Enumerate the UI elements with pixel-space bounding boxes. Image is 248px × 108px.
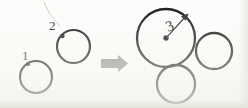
- circle-two-label: 2: [49, 18, 56, 33]
- circle-two-tangent-dot: [60, 34, 64, 38]
- rightwards-block-arrow-shape: [101, 55, 128, 72]
- radius-label: 3: [163, 17, 176, 35]
- circle-one-label: 1: [22, 48, 29, 63]
- figure-canvas: 1 2 3: [0, 0, 248, 108]
- right-circle-group: 3: [137, 9, 232, 103]
- circle-bottom-outline: [157, 65, 195, 103]
- left-circle-group: 1 2: [20, 2, 90, 93]
- circle-right-outline: [196, 33, 232, 69]
- circle-one-outline: [20, 61, 52, 93]
- circle-diagram-svg: 1 2 3: [0, 0, 248, 108]
- transform-arrow-icon: [101, 55, 128, 72]
